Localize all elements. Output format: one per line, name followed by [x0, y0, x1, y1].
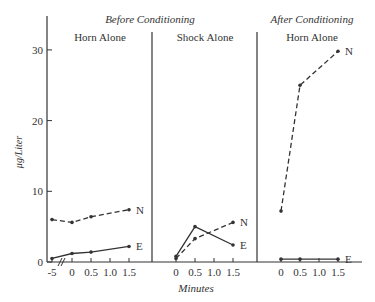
series-label-N: N	[136, 204, 144, 216]
data-point	[89, 250, 93, 254]
data-point	[279, 209, 283, 213]
data-point	[193, 237, 197, 241]
data-point	[298, 257, 302, 261]
series-label-E: E	[240, 239, 247, 251]
y-tick-label: 30	[32, 44, 44, 56]
data-point	[127, 245, 131, 249]
panel-title: Horn Alone	[74, 31, 126, 43]
x-axis-label: Minutes	[177, 282, 213, 294]
data-point	[231, 221, 235, 225]
chart: 0102030μg/LiterBefore ConditioningAfter …	[0, 0, 375, 302]
x-tick-label: 0.5	[84, 266, 98, 278]
y-tick-label: 10	[32, 185, 44, 197]
data-point	[50, 257, 54, 261]
x-tick-label: 1.0	[103, 266, 117, 278]
data-point	[231, 243, 235, 247]
chart-svg: 0102030μg/LiterBefore ConditioningAfter …	[0, 0, 375, 302]
data-point	[298, 83, 302, 87]
y-tick-label: 20	[32, 115, 44, 127]
panel-title: Horn Alone	[286, 31, 338, 43]
x-tick-label: 1.0	[312, 266, 326, 278]
data-point	[279, 257, 283, 261]
x-tick-label: 0	[69, 266, 75, 278]
data-point	[193, 225, 197, 229]
data-point	[89, 215, 93, 219]
series-label-E: E	[345, 253, 352, 265]
series-label-N: N	[240, 216, 248, 228]
x-tick-label: 0.5	[188, 266, 202, 278]
series-line-E	[176, 227, 233, 257]
panel-title: Shock Alone	[177, 31, 234, 43]
data-point	[50, 218, 54, 222]
chart-content: 0102030μg/LiterBefore ConditioningAfter …	[13, 13, 362, 294]
x-tick-label: 1.0	[207, 266, 221, 278]
data-point	[127, 208, 131, 212]
x-tick-label: 0	[278, 266, 284, 278]
x-tick-label: 1.5	[331, 266, 345, 278]
group-title-before: Before Conditioning	[105, 13, 195, 25]
series-label-N: N	[345, 45, 353, 57]
y-axis-label: μg/Liter	[13, 136, 24, 169]
x-tick-label: 0	[173, 266, 179, 278]
data-point	[336, 257, 340, 261]
x-tick-label: 1.5	[122, 266, 136, 278]
x-tick-label: -5	[47, 266, 57, 278]
series-line-N	[281, 51, 338, 211]
data-point	[174, 255, 178, 259]
x-tick-label: 0.5	[293, 266, 307, 278]
series-label-E: E	[136, 240, 143, 252]
group-title-after: After Conditioning	[270, 13, 354, 25]
y-tick-label: 0	[38, 256, 44, 268]
data-point	[336, 50, 340, 54]
data-point	[70, 252, 74, 256]
x-tick-label: 1.5	[226, 266, 240, 278]
data-point	[70, 221, 74, 225]
